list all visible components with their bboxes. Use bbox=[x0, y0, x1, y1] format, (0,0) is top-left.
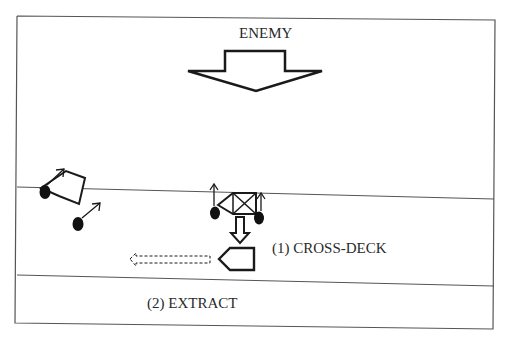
wheel-icon bbox=[40, 185, 51, 199]
enemy-direction-arrow-icon bbox=[188, 51, 322, 91]
extract-label: (2) EXTRACT bbox=[147, 296, 237, 311]
enemy-label: ENEMY bbox=[239, 26, 292, 41]
tactical-diagram bbox=[0, 0, 510, 342]
wheel-icon bbox=[254, 212, 264, 225]
cross-deck-arrow-icon bbox=[231, 217, 249, 243]
cross-deck-label: (1) CROSS-DECK bbox=[272, 241, 387, 256]
wheel-icon bbox=[73, 217, 84, 231]
disabled-vehicle-left bbox=[40, 169, 101, 231]
receiving-vehicle bbox=[219, 248, 254, 270]
road-edge-lower bbox=[17, 275, 494, 286]
extract-arrow-icon bbox=[130, 253, 210, 266]
wheel-icon bbox=[210, 207, 220, 220]
